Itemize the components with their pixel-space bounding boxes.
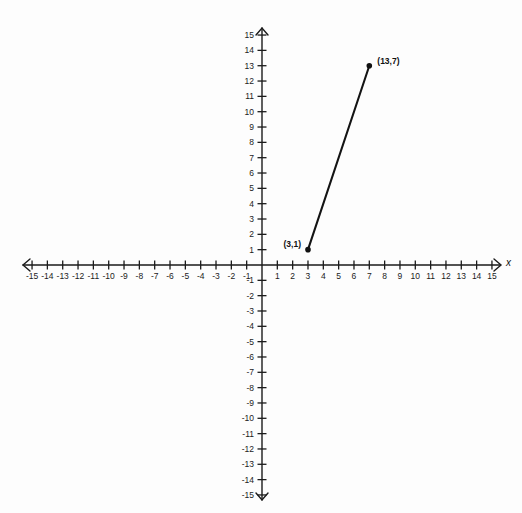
x-tick-label: -13 [57,272,69,281]
y-tick-label: 13 [245,61,254,70]
x-tick-label: 14 [472,272,481,281]
x-tick-label: -5 [182,272,190,281]
x-tick-label: -12 [72,272,84,281]
y-tick-label: 3 [249,215,254,224]
y-tick-label: -10 [242,414,254,423]
y-tick-label: -1 [246,276,254,285]
y-tick-label: -12 [242,445,254,454]
y-tick-label: 5 [249,184,254,193]
y-tick-label: 12 [245,77,254,86]
coordinate-plane-figure: -15-14-13-12-11-10-9-8-7-6-5-4-3-2-11234… [0,0,522,513]
x-tick-label: 2 [290,272,295,281]
y-tick-label: 11 [245,92,254,101]
y-tick-label: -6 [246,353,254,362]
y-tick-label: 2 [249,230,254,239]
y-tick-label: 14 [245,46,254,55]
x-tick-label: 15 [487,272,496,281]
x-tick-label: 11 [426,272,435,281]
data-point-label: (13,7) [377,57,399,66]
data-point [305,247,311,253]
x-tick-label: -10 [103,272,115,281]
y-tick-label: 15 [245,31,254,40]
x-tick-label: -2 [228,272,236,281]
y-tick-label: -5 [246,337,254,346]
x-tick-label: -14 [41,272,53,281]
y-tick-label: -8 [246,383,254,392]
segment-line [308,66,369,250]
x-tick-label: -11 [88,272,100,281]
y-tick-label: -11 [242,429,254,438]
data-point [367,63,373,69]
x-tick-label: -8 [136,272,144,281]
data-segment-group [308,66,369,250]
y-tick-label: 1 [249,245,254,254]
x-tick-label: 13 [457,272,466,281]
x-tick-label: -6 [166,272,174,281]
x-tick-label: 10 [411,272,420,281]
x-tick-label: -3 [212,272,220,281]
y-tick-label: 9 [249,123,254,132]
y-tick-label: -2 [246,291,254,300]
x-tick-label: 8 [382,272,387,281]
y-tick-label: -3 [246,307,254,316]
x-tick-label: -4 [197,272,205,281]
x-tick-label: 3 [306,272,311,281]
x-tick-label: -9 [120,272,128,281]
data-point-label: (3,1) [284,240,301,249]
x-tick-label: -15 [26,272,38,281]
x-tick-label: 5 [336,272,341,281]
axes-group [23,28,501,500]
x-tick-label: 1 [275,272,280,281]
x-axis-name-label: x [506,258,511,268]
x-tick-label: 4 [321,272,326,281]
x-tick-label: 6 [352,272,357,281]
x-tick-label: 9 [398,272,403,281]
y-tick-label: -4 [246,322,254,331]
y-tick-label: -15 [242,491,254,500]
x-tick-label: 7 [367,272,372,281]
y-tick-label: -14 [242,475,254,484]
x-tick-label: 12 [441,272,450,281]
plot-canvas [0,0,522,513]
y-tick-label: 6 [249,169,254,178]
y-tick-label: 7 [249,153,254,162]
y-tick-label: -9 [246,399,254,408]
y-tick-label: 8 [249,138,254,147]
y-tick-label: -7 [246,368,254,377]
y-tick-label: 4 [249,199,254,208]
y-tick-label: -13 [242,460,254,469]
x-tick-label: -7 [151,272,159,281]
y-tick-label: 10 [245,107,254,116]
